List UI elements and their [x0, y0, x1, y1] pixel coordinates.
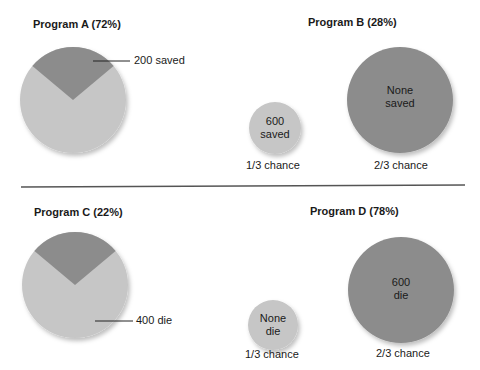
program-b-large-text: None saved — [370, 84, 430, 110]
program-c-pie — [22, 232, 128, 338]
section-divider — [21, 185, 465, 187]
program-d-title: Program D (78%) — [310, 205, 399, 217]
program-a-pie — [20, 47, 126, 153]
program-b-title: Program B (28%) — [308, 16, 397, 28]
program-a-label: 200 saved — [134, 54, 185, 66]
program-d-large-line2: die — [371, 289, 431, 302]
program-d-small-text: None die — [247, 312, 299, 338]
program-b-large-line2: saved — [370, 97, 430, 110]
program-d-large-text: 600 die — [371, 276, 431, 302]
program-a-title: Program A (72%) — [33, 18, 121, 30]
program-b-small-caption: 1/3 chance — [246, 159, 300, 171]
program-b-large-line1: None — [370, 84, 430, 97]
program-d-small-line2: die — [247, 325, 299, 338]
program-d-large-caption: 2/3 chance — [376, 347, 430, 359]
program-c-title: Program C (22%) — [34, 206, 123, 218]
program-b-small-line1: 600 — [249, 115, 301, 128]
program-d-small-line1: None — [247, 312, 299, 325]
program-b-small-line2: saved — [249, 128, 301, 141]
program-b-small-text: 600 saved — [249, 115, 301, 141]
program-d-small-caption: 1/3 chance — [245, 348, 299, 360]
program-c-label: 400 die — [136, 314, 172, 326]
program-b-large-caption: 2/3 chance — [374, 159, 428, 171]
program-d-large-line1: 600 — [371, 276, 431, 289]
diagram-canvas — [0, 0, 480, 370]
